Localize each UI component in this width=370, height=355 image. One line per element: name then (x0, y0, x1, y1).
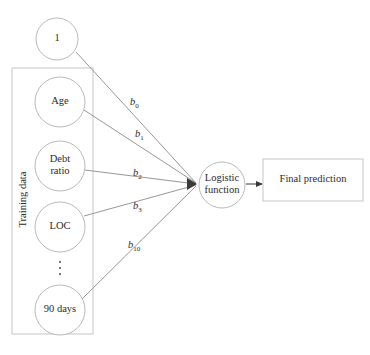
edge-label-bias: b0 (130, 96, 139, 107)
vertical-ellipsis-icon (55, 259, 65, 277)
ellipsis-dot (59, 267, 61, 269)
edge-label-ninety-days: b10 (128, 239, 140, 250)
final-prediction-box (263, 159, 363, 201)
edge-convergence-arrowhead (187, 178, 197, 190)
input-node-ninety-days (35, 285, 85, 335)
training-data-label: Training data (17, 160, 28, 240)
edge-label-debt-ratio: b2 (133, 167, 142, 178)
input-node-loc (35, 202, 85, 252)
diagram-vector-layer (0, 0, 370, 355)
logistic-function-node-circle (199, 162, 245, 208)
ellipsis-dot (59, 273, 61, 275)
edge-label-age: b1 (135, 128, 144, 139)
input-node-age (35, 77, 85, 127)
input-node-debt-ratio (35, 141, 85, 191)
input-node-bias (36, 18, 78, 60)
edge-line-bias (76, 52, 196, 183)
diagram-canvas: Training data b0b1b2b3b101AgeDebtratioLO… (0, 0, 370, 355)
ellipsis-dot (59, 261, 61, 263)
edge-label-loc: b3 (133, 200, 142, 211)
input-node-circles (35, 18, 85, 335)
